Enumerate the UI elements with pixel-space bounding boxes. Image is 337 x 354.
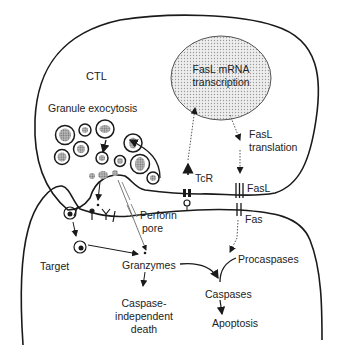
- tcr-complex: [183, 164, 191, 211]
- granule-exocytosis-label: Granule exocytosis: [48, 102, 137, 114]
- caspase-independent-label-1: Caspase-: [113, 297, 175, 309]
- fasl-fas: [236, 183, 243, 216]
- ctl-label: CTL: [86, 70, 107, 82]
- fasl-translation-label-2: translation: [249, 141, 297, 153]
- tcr-label: TcR: [195, 172, 213, 184]
- granzymes-label: Granzymes: [122, 259, 176, 271]
- caspase-independent-label-3: death: [113, 323, 175, 335]
- fasl-label: FasL: [247, 182, 270, 194]
- released-granules: [89, 170, 118, 179]
- caspase-independent-label-2: independent: [113, 310, 175, 322]
- apoptosis-label: Apoptosis: [212, 317, 258, 329]
- perforin-pore: [122, 182, 137, 218]
- perforin-label-1: Perforin: [140, 209, 177, 221]
- nucleus-label-line1: FasL mRNA: [191, 63, 251, 75]
- diagram-canvas: CTL Granule exocytosis FasL mRNA transcr…: [0, 0, 337, 354]
- caspases-label: Caspases: [205, 288, 252, 300]
- fasl-translation-label-1: FasL: [249, 128, 272, 140]
- nucleus-label-line2: transcription: [191, 76, 251, 88]
- perforin-label-2: pore: [142, 222, 163, 234]
- target-label: Target: [40, 260, 69, 272]
- fas-label: Fas: [245, 213, 263, 225]
- procaspases-label: Procaspases: [238, 253, 299, 265]
